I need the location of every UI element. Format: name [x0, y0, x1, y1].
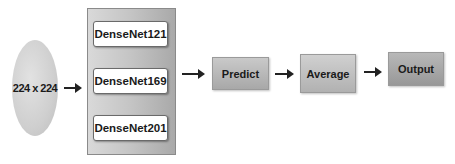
arrow-average-to-output-icon — [364, 71, 380, 73]
output-label: Output — [398, 63, 434, 75]
model-label: DenseNet201 — [94, 122, 166, 134]
average-label: Average — [306, 68, 349, 80]
predict-node: Predict — [212, 57, 269, 90]
arrow-ensemble-to-predict-icon — [182, 73, 203, 75]
predict-label: Predict — [222, 68, 259, 80]
input-size-node: 224 x 224 — [12, 40, 58, 136]
arrow-input-to-ensemble-icon — [64, 87, 80, 89]
model-label: DenseNet169 — [94, 75, 166, 87]
input-size-label: 224 x 224 — [13, 82, 57, 94]
model-densenet169: DenseNet169 — [93, 68, 168, 94]
model-densenet121: DenseNet121 — [93, 21, 168, 47]
model-label: DenseNet121 — [94, 28, 166, 40]
average-node: Average — [300, 54, 356, 93]
arrow-predict-to-average-icon — [275, 73, 292, 75]
output-node: Output — [388, 52, 444, 86]
model-densenet201: DenseNet201 — [93, 115, 168, 141]
